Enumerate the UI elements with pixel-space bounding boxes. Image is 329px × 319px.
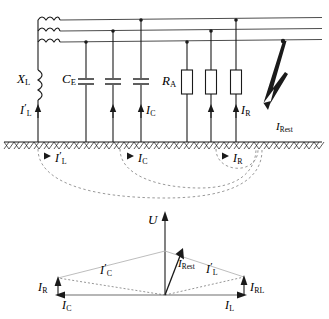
return-current-paths [38,149,262,198]
source-coil-2 [38,28,60,31]
ground-arrow-capacitive [127,153,134,160]
label-ground-resistive-current: IR [233,152,242,164]
junction-dot-res3 [234,18,238,22]
res2-body [206,70,217,94]
resistor-branch-3 [231,20,242,142]
label-capacitance: CE [62,72,76,85]
label-residual-current: IRest [276,121,293,132]
ground-hatching [4,142,324,149]
label-phasor-inductive: IL [225,299,234,311]
label-phasor-resistive-load: IRL [250,281,264,293]
res1-body [182,70,193,94]
resistor3-current-arrow [233,104,239,118]
junction-dot-cap2 [111,29,115,33]
coil-current-arrow [35,104,41,118]
return-path-outer [38,149,262,198]
junction-dot-res2 [209,29,213,33]
phasor-capacitive-total [58,278,165,295]
phasor-inductive-arrowhead [237,292,247,299]
phasor-residual [165,248,184,295]
label-resistance: RA [162,74,176,87]
capacitor-branch-1 [78,42,94,142]
arc-fault-symbol [264,41,289,110]
phase-lines [60,18,322,43]
phasor-inductive-total [165,277,244,295]
label-coil-current: I′L [20,104,31,116]
label-phasor-residual: IRest [178,258,195,269]
capacitor-branch-3 [133,20,149,142]
junction-dot-res1 [185,40,189,44]
voltage-axis-arrowhead [162,211,169,221]
label-ground-capacitive-current: IC [138,152,147,164]
fault-current-arrowhead [264,101,272,110]
source-coils [38,17,60,42]
lightning-bolt [264,41,289,104]
capacitor3-current-arrow [138,104,144,118]
resistor2-current-arrow [208,104,214,118]
inductor-symbol [38,70,42,100]
source-coil-3 [38,39,60,42]
res3-body [231,70,242,94]
label-phasor-capacitive-total: I′C [100,264,112,276]
petersen-coil-branch [38,20,42,142]
junction-dot-cap3 [139,18,143,22]
capacitor2-current-arrow [110,104,116,118]
voltage-axis [162,211,169,295]
label-voltage-axis: U [148,213,157,226]
label-ground-coil-current: I′L [55,152,66,164]
label-capacitive-current: IC [146,104,155,116]
resistor-branch-2 [206,31,217,142]
source-coil-1 [38,17,60,20]
ground-arrow-resistive [222,153,229,160]
capacitor-branch-2 [105,31,121,142]
label-resistive-current: IR [241,104,250,116]
phasor-vertical-components [58,283,244,295]
ground-arrow-coil [44,153,51,160]
ground [4,142,324,149]
ground-return-arrows [44,153,229,160]
phase-line-2 [60,29,322,32]
junction-dot-cap1 [84,40,88,44]
label-reactance: XL [17,72,30,85]
phasor-dashed-resultants [58,277,244,295]
label-phasor-resistive: IR [38,281,47,293]
phase-line-1 [60,18,322,21]
label-phasor-inductive-total: I′L [206,263,217,275]
circuit-and-phasor-figure [0,0,329,319]
label-phasor-capacitive: IC [62,299,71,311]
resistor-branch-1 [182,42,193,142]
